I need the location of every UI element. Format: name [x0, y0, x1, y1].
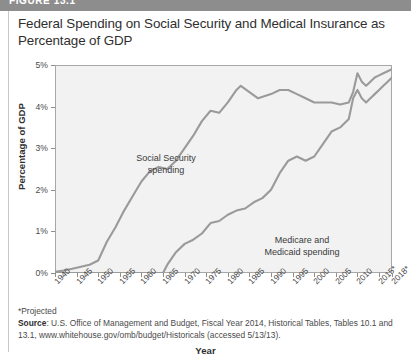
- y-tick-label: 0%: [22, 268, 48, 278]
- page-title: Federal Spending on Social Security and …: [18, 15, 403, 49]
- y-tick-label: 2%: [22, 185, 48, 195]
- footnotes: *Projected Source: U.S. Office of Manage…: [18, 306, 403, 341]
- series-label-medicare: Medicare and Medicaid spending: [248, 235, 356, 258]
- figure-number-band: FIGURE 13.1: [0, 0, 411, 11]
- y-tick-label: 1%: [22, 226, 48, 236]
- y-tick-mark: [51, 231, 55, 232]
- x-axis-title: Year: [0, 345, 411, 356]
- chart: Percentage of GDP 0%1%2%3%4%5% 194019451…: [0, 55, 411, 300]
- source-note: Source: U.S. Office of Management and Bu…: [18, 318, 403, 341]
- source-label: Source: [18, 318, 46, 328]
- figure-number: FIGURE 13.1: [9, 0, 76, 6]
- y-tick-mark: [51, 148, 55, 149]
- series-label-social-security: Social Security spending: [118, 153, 214, 176]
- y-tick-mark: [51, 65, 55, 66]
- y-tick-mark: [51, 190, 55, 191]
- y-tick-label: 4%: [22, 102, 48, 112]
- y-tick-label: 3%: [22, 143, 48, 153]
- source-text: : U.S. Office of Management and Budget, …: [18, 318, 393, 339]
- projected-note: *Projected: [18, 306, 403, 317]
- y-tick-label: 5%: [22, 60, 48, 70]
- y-tick-mark: [51, 107, 55, 108]
